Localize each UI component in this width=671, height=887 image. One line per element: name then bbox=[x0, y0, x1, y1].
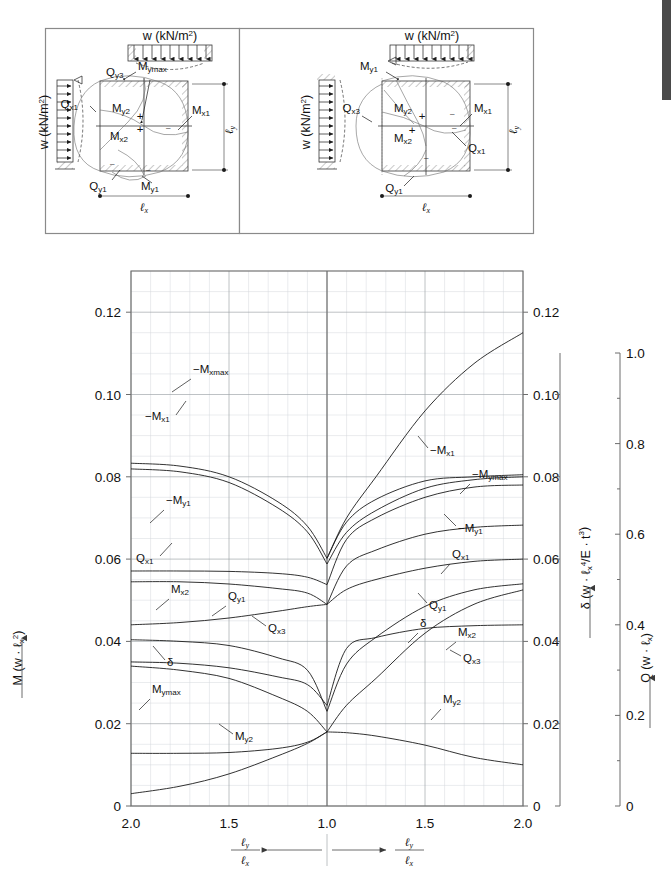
left-top-load-close: ) bbox=[193, 29, 197, 43]
q-tick-label: 1.0 bbox=[626, 346, 645, 361]
svg-text:–: – bbox=[146, 165, 151, 174]
curve-leader bbox=[172, 379, 191, 392]
x-tick-label: 2.0 bbox=[514, 816, 533, 831]
q-tick-label: 0.8 bbox=[626, 437, 645, 452]
right-top-load-label: w (kN/m bbox=[404, 29, 451, 43]
curve-leader bbox=[418, 436, 428, 448]
x-axis-title-left: ℓy ℓx bbox=[231, 836, 322, 868]
curve-leader bbox=[219, 724, 233, 734]
curve-label-: δ bbox=[420, 617, 426, 629]
right-top-load-close: ) bbox=[455, 29, 459, 43]
curve-label-Mx2: Mx2 bbox=[171, 583, 190, 597]
svg-text:–: – bbox=[450, 109, 455, 118]
x-right-denominator: ℓx bbox=[405, 854, 414, 868]
curve-label-Mx2: Mx2 bbox=[458, 626, 477, 640]
q-tick-label: 0.4 bbox=[626, 618, 645, 633]
curve-leader bbox=[418, 593, 427, 603]
x-tick-label: 1.5 bbox=[220, 816, 239, 831]
y-left-mirror-tick-label: 0 bbox=[533, 799, 541, 814]
coefficient-chart: −Mxmax−Mx1−My1Qx1Qy1Mx2Qx3δMymaxMy2−Mx1−… bbox=[0, 238, 671, 887]
y-left-tick-label: 0.02 bbox=[95, 717, 121, 732]
x-axis-title-right: ℓy ℓx bbox=[332, 836, 424, 868]
x-left-denominator: ℓx bbox=[241, 854, 250, 868]
x-tick-label: 1.0 bbox=[318, 816, 337, 831]
y-left-tick-label: 0.12 bbox=[95, 305, 121, 320]
y-left-mirror-tick-label: 0.12 bbox=[533, 305, 559, 320]
y-left-tick-label: 0.04 bbox=[95, 634, 122, 649]
y-left-tick-label: 0 bbox=[113, 799, 121, 814]
curve-leader bbox=[212, 606, 226, 616]
diagram-box-right bbox=[240, 29, 534, 234]
y-left-tick-label: 0.08 bbox=[95, 470, 121, 485]
curve-label-Mymax: Mymax bbox=[152, 683, 181, 697]
curve-leader bbox=[139, 699, 150, 710]
q-tick-label: 0 bbox=[626, 799, 634, 814]
curve-leader bbox=[431, 709, 441, 720]
svg-text:+: + bbox=[137, 123, 144, 135]
q-tick-label: 0.6 bbox=[626, 527, 645, 542]
svg-text:–: – bbox=[424, 153, 429, 162]
curve-label-Mx1: −Mx1 bbox=[145, 410, 170, 424]
case-diagrams: + + – – – w (kN/m2) bbox=[0, 0, 671, 250]
curve-leader bbox=[446, 642, 456, 650]
curve-leader bbox=[150, 510, 164, 523]
curve-label-Qx3: Qx3 bbox=[463, 652, 481, 666]
right-side-load-close: ) bbox=[299, 95, 313, 99]
curve-label-My2: My2 bbox=[235, 730, 254, 744]
x-right-numerator: ℓy bbox=[405, 836, 414, 850]
curve-label-Qx1: Qx1 bbox=[452, 548, 470, 562]
curve-label-My2: My2 bbox=[443, 693, 462, 707]
svg-text:+: + bbox=[419, 110, 426, 122]
curve-leader bbox=[176, 401, 186, 415]
curve-leader bbox=[450, 650, 461, 656]
y-axis-delta bbox=[555, 395, 560, 807]
x-left-numerator: ℓy bbox=[241, 836, 250, 850]
y-delta-axis-title: δ (w · ℓx4/E · t3) bbox=[577, 527, 594, 609]
svg-text:+: + bbox=[409, 124, 416, 136]
x-tick-label: 1.5 bbox=[416, 816, 435, 831]
curve-label-Mxmax: −Mxmax bbox=[193, 363, 228, 377]
curve-label-: δ bbox=[167, 656, 173, 668]
curve-label-Mx1: −Mx1 bbox=[430, 444, 455, 458]
left-side-load-label: w (kN/m bbox=[37, 103, 51, 150]
curve-label-My1: −My1 bbox=[166, 494, 191, 508]
figure-page: + + – – – w (kN/m2) bbox=[0, 0, 671, 887]
curve-label-My1: −My1 bbox=[458, 522, 483, 536]
y-left-axis-title: M (w · ℓx2) bbox=[11, 631, 26, 686]
y-left-tick-label: 0.06 bbox=[95, 552, 121, 567]
svg-text:–: – bbox=[166, 123, 171, 132]
curve-label-Qx1: Qx1 bbox=[136, 552, 154, 566]
curve-leader bbox=[153, 646, 165, 660]
right-side-load-label: w (kN/m bbox=[299, 103, 313, 150]
curve-leader bbox=[156, 599, 169, 610]
svg-text:–: – bbox=[452, 123, 457, 132]
curve-label-Qx3: Qx3 bbox=[268, 622, 286, 636]
left-top-load-label: w (kN/m bbox=[142, 29, 189, 43]
x-axis-ticks: 2.01.51.01.52.0 bbox=[122, 816, 533, 831]
q-tick-label: 0.2 bbox=[626, 708, 645, 723]
y-left-mirror-tick-label: 0.04 bbox=[533, 634, 560, 649]
curve-label-Qy1: Qy1 bbox=[228, 590, 246, 604]
left-side-load-close: ) bbox=[37, 95, 51, 99]
svg-text:–: – bbox=[110, 159, 115, 168]
curve-leader bbox=[444, 514, 456, 526]
curve-label-Mymax: −Mymax bbox=[472, 468, 507, 482]
y-q-axis-title: Q (w · ℓx) bbox=[639, 633, 654, 683]
y-left-tick-label: 0.10 bbox=[95, 388, 121, 403]
x-tick-label: 2.0 bbox=[122, 816, 141, 831]
